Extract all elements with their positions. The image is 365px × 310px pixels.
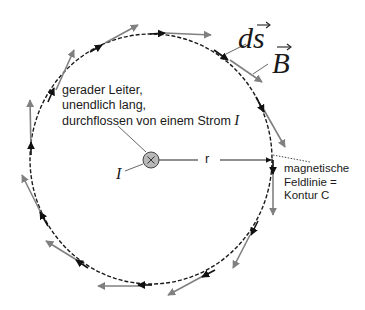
conductor-line-1: gerader Leiter, bbox=[62, 83, 239, 98]
fieldline-line-2: Feldlinie = bbox=[284, 176, 349, 190]
conductor-line-2: unendlich lang, bbox=[62, 98, 239, 113]
radius-label-text: r bbox=[205, 151, 209, 166]
current-label-text: I bbox=[116, 165, 121, 182]
conductor-leader-line bbox=[118, 126, 146, 152]
b-leader-line bbox=[253, 64, 268, 74]
b-label: B bbox=[272, 48, 290, 78]
ds-label-text: ds bbox=[238, 21, 265, 54]
conductor-line-3: durchflossen von einem Strom I bbox=[62, 113, 239, 129]
current-label: I bbox=[116, 166, 121, 181]
fieldline-description: magnetische Feldlinie = Kontur C bbox=[284, 162, 349, 203]
conductor-line-3-text: durchflossen von einem Strom bbox=[62, 114, 231, 128]
fieldline-line-1: magnetische bbox=[284, 162, 349, 176]
ds-label: ds bbox=[238, 22, 265, 54]
fieldline-line-3: Kontur C bbox=[284, 189, 349, 203]
conductor-cross-section bbox=[143, 152, 159, 168]
fieldline-leader-line bbox=[273, 155, 310, 162]
radius-label: r bbox=[205, 151, 209, 166]
current-symbol-inline: I bbox=[234, 112, 239, 128]
current-leader-line bbox=[125, 164, 143, 171]
b-label-text: B bbox=[272, 47, 290, 79]
conductor-description: gerader Leiter, unendlich lang, durchflo… bbox=[62, 83, 239, 129]
field-diagram bbox=[0, 0, 365, 310]
